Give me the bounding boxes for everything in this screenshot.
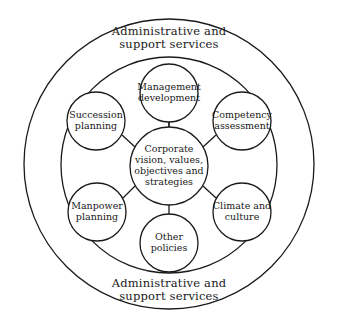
label-competency-assessment: Competency assessment [212,110,272,132]
label-line: development [137,93,200,104]
connector-competency [203,135,216,147]
label-management-development: Management development [137,82,200,104]
connector-climate [203,186,216,198]
outer-label-bottom-line2: support services [112,290,227,303]
outer-label-top: Administrative and support services [112,25,227,51]
label-line: assessment [212,121,272,132]
label-line: planning [71,212,123,223]
center-line4: strategies [134,177,203,188]
label-climate-and-culture: Climate and culture [213,201,271,223]
connector-succession [122,135,135,147]
connector-manpower [123,186,135,198]
outer-label-bottom: Administrative and support services [112,277,227,303]
label-line: policies [151,243,188,254]
label-succession-planning: Succession planning [69,110,123,132]
outer-label-top-line2: support services [112,38,227,51]
label-line: planning [69,121,123,132]
center-label: Corporate vision, values, objectives and… [134,144,203,188]
label-line: culture [213,212,271,223]
label-manpower-planning: Manpower planning [71,201,123,223]
label-other-policies: Other policies [151,232,188,254]
